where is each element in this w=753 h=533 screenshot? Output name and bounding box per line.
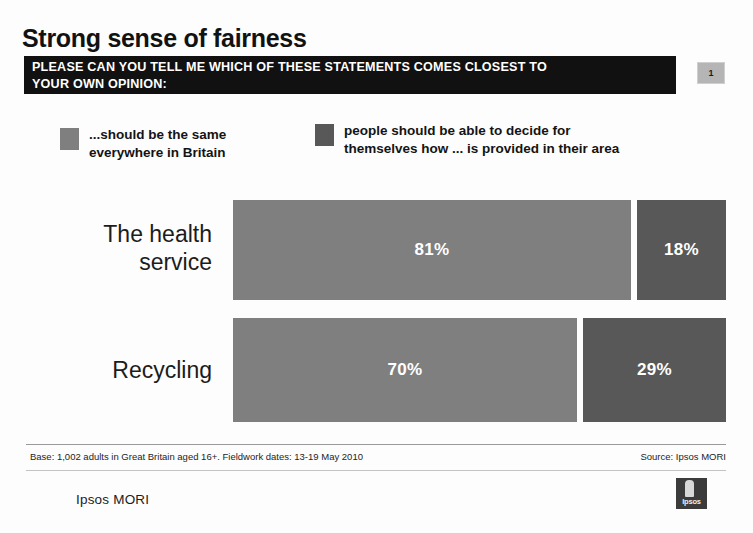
bar-value-label: 18% — [664, 240, 699, 260]
legend-label-line-2: themselves how ... is provided in their … — [344, 140, 619, 158]
question-banner: PLEASE CAN YOU TELL ME WHICH OF THESE ST… — [24, 56, 676, 94]
bar-row-label-line-1: The health — [30, 220, 212, 248]
bar-value-label: 29% — [637, 360, 672, 380]
bar-row: Recycling 70% 29% — [0, 318, 753, 422]
footer-divider-top — [26, 444, 726, 445]
stacked-bar-chart: The health service 81% 18% Recycling 70%… — [0, 190, 753, 435]
chart-legend: ...should be the same everywhere in Brit… — [0, 122, 753, 170]
bar-row-label-health-service: The health service — [30, 220, 212, 276]
slide-canvas: Strong sense of fairness PLEASE CAN YOU … — [0, 0, 753, 533]
legend-label-line-2: everywhere in Britain — [89, 144, 226, 162]
legend-label-line-1: people should be able to decide for — [344, 122, 619, 140]
bar-value-label: 70% — [388, 360, 423, 380]
question-line-1: PLEASE CAN YOU TELL ME WHICH OF THESE ST… — [32, 59, 676, 76]
footer-base-text: Base: 1,002 adults in Great Britain aged… — [30, 451, 363, 462]
legend-swatch-dark-icon — [315, 124, 334, 146]
footer-divider-bottom — [26, 470, 726, 471]
legend-item-same-everywhere: ...should be the same everywhere in Brit… — [60, 126, 226, 162]
brand-name: Ipsos MORI — [76, 492, 149, 507]
legend-label-same-everywhere: ...should be the same everywhere in Brit… — [89, 126, 226, 162]
page-title: Strong sense of fairness — [22, 24, 307, 53]
bar-segment-dark: 18% — [637, 200, 726, 300]
legend-label-line-1: ...should be the same — [89, 126, 226, 144]
legend-item-decide-locally: people should be able to decide for them… — [315, 122, 619, 158]
ipsos-mori-logo-icon: Ipsos — [676, 478, 707, 509]
page-number-badge: 1 — [697, 62, 725, 84]
logo-figure-shape — [685, 480, 694, 497]
legend-label-decide-locally: people should be able to decide for them… — [344, 122, 619, 158]
logo-wordmark: Ipsos — [676, 497, 707, 506]
bar-segment-dark: 29% — [583, 318, 726, 422]
bar-segment-light: 81% — [233, 200, 631, 300]
bar-row-label-line-2: service — [30, 248, 212, 276]
bar-value-label: 81% — [415, 240, 450, 260]
bar-segment-light: 70% — [233, 318, 577, 422]
question-line-2: YOUR OWN OPINION: — [32, 76, 676, 93]
bar-row-label-recycling: Recycling — [30, 356, 212, 384]
footer-source-text: Source: Ipsos MORI — [640, 451, 726, 462]
bar-row-label-line-1: Recycling — [30, 356, 212, 384]
legend-swatch-light-icon — [60, 128, 79, 150]
bar-row: The health service 81% 18% — [0, 200, 753, 300]
